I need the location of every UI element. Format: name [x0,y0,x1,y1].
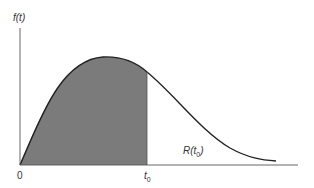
shaded-area [20,57,147,165]
y-axis-label: f(t) [13,12,25,23]
t0-label: t0 [144,170,151,183]
pdf-diagram: f(t) 0 t0 R(t0) [0,0,314,188]
t0-subscript: 0 [147,176,151,183]
diagram-canvas [0,0,314,188]
origin-label: 0 [17,170,23,181]
region-label-text: R(t [183,145,196,156]
region-label: R(t0) [183,145,204,158]
region-label-close: ) [200,145,203,156]
